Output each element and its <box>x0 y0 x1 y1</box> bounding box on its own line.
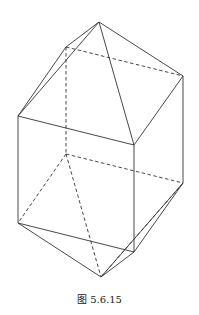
figure-caption: 图 5.6.15 <box>0 291 199 306</box>
visible-edge <box>134 76 183 145</box>
visible-edge <box>18 223 134 252</box>
visible-edge <box>99 22 134 145</box>
visible-edge <box>101 252 134 277</box>
visible-edge <box>18 116 134 145</box>
hidden-edge <box>66 154 183 183</box>
visible-edge <box>66 22 99 47</box>
visible-edge <box>18 223 101 277</box>
visible-edge <box>134 183 183 252</box>
hidden-edge <box>66 154 101 277</box>
visible-edge <box>101 183 183 277</box>
polyhedron-diagram <box>0 0 199 315</box>
visible-edge <box>18 22 99 116</box>
hidden-edge <box>18 154 66 223</box>
visible-edge <box>18 47 66 116</box>
hidden-edge <box>66 47 183 76</box>
